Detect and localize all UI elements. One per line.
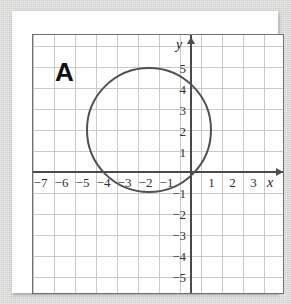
y-axis-label: y bbox=[176, 38, 182, 52]
grid-line-vertical bbox=[264, 35, 265, 293]
x-tick-label: −7 bbox=[30, 176, 51, 189]
figure-card: −7 −6 −5 −4 −3 −2 −1 1 2 3 5 4 3 2 1 −1 … bbox=[12, 11, 278, 293]
grid-line-vertical bbox=[222, 35, 223, 293]
y-tick-label: 4 bbox=[164, 83, 186, 96]
y-tick-label: −3 bbox=[164, 229, 186, 242]
y-tick-label: −1 bbox=[164, 187, 186, 200]
x-tick-label: −4 bbox=[93, 176, 114, 189]
x-axis-arrow-icon bbox=[276, 168, 283, 176]
figure-page: −7 −6 −5 −4 −3 −2 −1 1 2 3 5 4 3 2 1 −1 … bbox=[0, 0, 291, 304]
grid-line-horizontal bbox=[33, 214, 283, 215]
x-tick-label: 3 bbox=[243, 176, 264, 189]
grid-line-horizontal bbox=[33, 235, 283, 236]
y-tick-label: 2 bbox=[164, 125, 186, 138]
x-tick-label: −2 bbox=[135, 176, 156, 189]
grid-line-horizontal bbox=[33, 193, 283, 194]
x-tick-label: −5 bbox=[72, 176, 93, 189]
y-tick-label: 1 bbox=[164, 146, 186, 159]
y-axis-arrow-icon bbox=[187, 37, 195, 44]
x-tick-label: 2 bbox=[222, 176, 243, 189]
coordinate-plane: −7 −6 −5 −4 −3 −2 −1 1 2 3 5 4 3 2 1 −1 … bbox=[32, 34, 284, 294]
y-tick-label: 5 bbox=[164, 62, 186, 75]
grid-line-horizontal bbox=[33, 256, 283, 257]
panel-label: A bbox=[55, 59, 74, 85]
y-tick-label: −2 bbox=[164, 208, 186, 221]
x-tick-label: 1 bbox=[201, 176, 222, 189]
x-axis-label: x bbox=[267, 176, 273, 190]
x-tick-label: −3 bbox=[114, 176, 135, 189]
x-tick-label: −6 bbox=[51, 176, 72, 189]
grid-line-vertical bbox=[243, 35, 244, 293]
grid-line-horizontal bbox=[33, 46, 283, 47]
y-tick-label: −5 bbox=[164, 271, 186, 284]
grid-line-vertical bbox=[33, 35, 34, 293]
y-tick-label: 3 bbox=[164, 104, 186, 117]
y-tick-label: −4 bbox=[164, 250, 186, 263]
grid-line-horizontal bbox=[33, 277, 283, 278]
grid-line-vertical bbox=[75, 35, 76, 293]
